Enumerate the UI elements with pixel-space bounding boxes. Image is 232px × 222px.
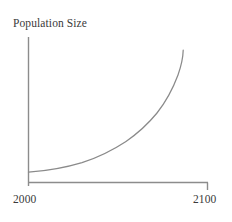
x-tick-label-2100: 2100 — [193, 193, 216, 205]
population-growth-curve — [29, 50, 184, 172]
population-growth-chart: Population Size 2000 2100 — [0, 0, 232, 222]
plot-area — [0, 0, 232, 222]
x-tick-label-2000: 2000 — [13, 193, 36, 205]
